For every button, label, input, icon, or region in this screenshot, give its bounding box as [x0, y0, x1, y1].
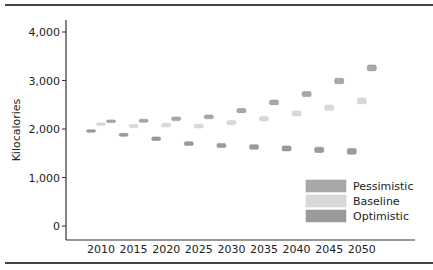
x-tick-label: 2020	[152, 243, 180, 256]
legend-label-baseline: Baseline	[353, 195, 400, 208]
x-tick-label: 2050	[348, 243, 376, 256]
marker-pessimistic	[204, 115, 213, 119]
x-tick-label: 2040	[283, 243, 311, 256]
legend-label-optimistic: Optimistic	[353, 210, 409, 223]
legend-swatch-baseline	[306, 195, 346, 207]
x-tick-label: 2015	[120, 243, 148, 256]
marker-pessimistic	[367, 65, 376, 71]
marker-pessimistic	[172, 117, 181, 121]
marker-pessimistic	[139, 119, 148, 122]
marker-optimistic	[282, 146, 291, 151]
marker-optimistic	[152, 137, 161, 141]
marker-baseline	[227, 121, 236, 125]
marker-baseline	[129, 125, 138, 128]
chart: 01,0002,0003,0004,000Kilocalories2010201…	[0, 0, 433, 270]
marker-pessimistic	[302, 92, 311, 97]
marker-optimistic	[217, 143, 226, 147]
y-tick-label: 2,000	[29, 123, 61, 136]
x-tick-label: 2035	[250, 243, 278, 256]
y-tick-label: 3,000	[29, 75, 61, 88]
marker-pessimistic	[270, 100, 279, 105]
x-tick-label: 2025	[185, 243, 213, 256]
marker-baseline	[97, 123, 106, 126]
legend-swatch-optimistic	[306, 210, 346, 222]
marker-optimistic	[315, 147, 324, 152]
marker-optimistic	[87, 130, 96, 133]
marker-baseline	[325, 105, 334, 110]
y-tick-label: 0	[53, 220, 60, 233]
marker-optimistic	[347, 148, 356, 154]
marker-optimistic	[184, 142, 193, 146]
x-tick-label: 2010	[87, 243, 115, 256]
marker-baseline	[194, 124, 203, 128]
legend-swatch-pessimistic	[306, 180, 346, 192]
marker-pessimistic	[237, 108, 246, 112]
x-tick-label: 2030	[217, 243, 245, 256]
legend-label-pessimistic: Pessimistic	[353, 180, 413, 193]
marker-optimistic	[250, 145, 259, 150]
marker-baseline	[162, 123, 171, 127]
marker-baseline	[260, 117, 269, 122]
marker-baseline	[357, 98, 366, 104]
marker-baseline	[292, 111, 301, 116]
y-tick-label: 1,000	[29, 172, 61, 185]
marker-pessimistic	[107, 120, 116, 123]
y-axis-label: Kilocalories	[10, 98, 23, 161]
marker-pessimistic	[335, 78, 344, 83]
y-tick-label: 4,000	[29, 26, 61, 39]
marker-optimistic	[119, 133, 128, 136]
x-tick-label: 2045	[315, 243, 343, 256]
